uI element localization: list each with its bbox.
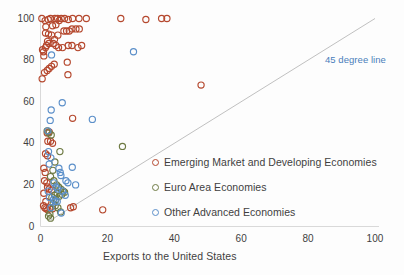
data-point bbox=[57, 149, 63, 155]
x-tick-label-20: 20 bbox=[92, 233, 122, 244]
x-tick-label-100: 100 bbox=[360, 233, 390, 244]
x-tick-label-40: 40 bbox=[159, 233, 189, 244]
legend-label-other-advanced: Other Advanced Economies bbox=[164, 206, 295, 218]
data-point bbox=[100, 207, 106, 213]
data-point bbox=[83, 15, 89, 21]
y-tick-label-100: 100 bbox=[9, 13, 35, 24]
legend-item-other-advanced[interactable]: Other Advanced Economies bbox=[152, 206, 377, 218]
data-point bbox=[48, 52, 54, 58]
data-point bbox=[48, 107, 54, 113]
x-tick-label-0: 0 bbox=[26, 233, 56, 244]
chart-legend: Emerging Market and Developing Economies… bbox=[152, 156, 377, 218]
data-point bbox=[65, 16, 71, 22]
x-axis-title: Exports to the United States bbox=[103, 250, 237, 262]
data-point bbox=[198, 82, 204, 88]
legend-item-euro-area[interactable]: Euro Area Economies bbox=[152, 181, 377, 193]
data-point bbox=[47, 117, 53, 123]
data-point bbox=[46, 161, 52, 167]
legend-label-emerging: Emerging Market and Developing Economies bbox=[164, 156, 377, 168]
x-tick-label-80: 80 bbox=[293, 233, 323, 244]
series-1 bbox=[44, 128, 125, 222]
data-point bbox=[56, 165, 62, 171]
plot-canvas bbox=[0, 0, 404, 275]
data-point bbox=[43, 24, 49, 30]
scatter-chart: 020406080100 020406080100 Exports to the… bbox=[0, 0, 404, 275]
data-point bbox=[73, 182, 79, 188]
y-tick-label-60: 60 bbox=[9, 96, 35, 107]
data-point bbox=[69, 164, 75, 170]
data-point bbox=[55, 32, 61, 38]
data-point bbox=[65, 72, 71, 78]
data-point bbox=[50, 167, 56, 173]
data-point bbox=[118, 15, 124, 21]
y-tick-label-0: 0 bbox=[9, 221, 35, 232]
data-point bbox=[130, 49, 136, 55]
data-point bbox=[143, 16, 149, 22]
data-point bbox=[89, 116, 95, 122]
legend-marker-circle-icon bbox=[152, 184, 159, 191]
data-point bbox=[69, 42, 75, 48]
legend-label-euro-area: Euro Area Economies bbox=[164, 181, 267, 193]
x-tick-label-60: 60 bbox=[226, 233, 256, 244]
data-point bbox=[76, 15, 82, 21]
y-tick-label-40: 40 bbox=[9, 137, 35, 148]
legend-item-emerging[interactable]: Emerging Market and Developing Economies bbox=[152, 156, 377, 168]
legend-marker-circle-icon bbox=[152, 209, 159, 216]
forty-five-degree-line-label: 45 degree line bbox=[325, 54, 386, 65]
data-point bbox=[70, 115, 76, 121]
y-tick-label-20: 20 bbox=[9, 179, 35, 190]
data-point bbox=[64, 59, 70, 65]
legend-marker-circle-icon bbox=[152, 159, 159, 166]
data-point bbox=[59, 100, 65, 106]
data-point bbox=[47, 173, 53, 179]
data-point bbox=[41, 165, 47, 171]
data-point bbox=[70, 15, 76, 21]
data-point bbox=[42, 169, 48, 175]
y-tick-label-80: 80 bbox=[9, 54, 35, 65]
data-point bbox=[119, 143, 125, 149]
data-point bbox=[41, 53, 47, 59]
